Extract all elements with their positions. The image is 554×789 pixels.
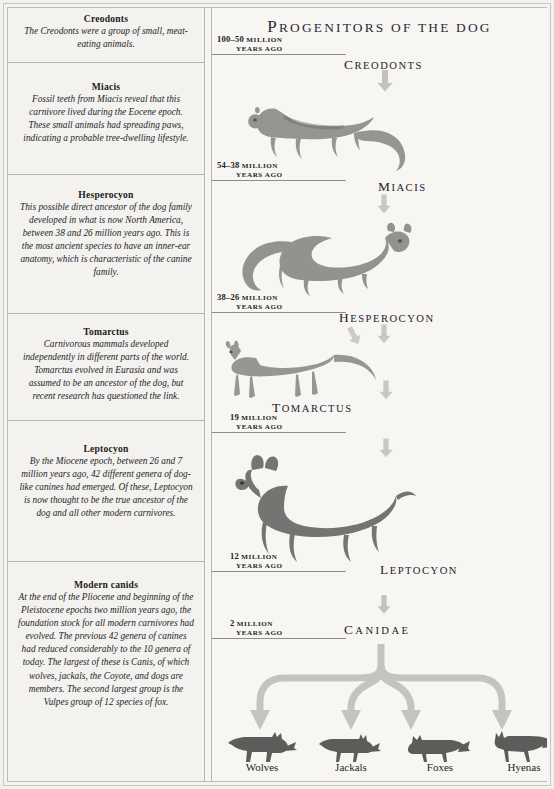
arrow-down-icon bbox=[377, 594, 391, 615]
descendant-label-hyenas: Hyenas bbox=[484, 761, 547, 773]
illustration-tomarctus bbox=[222, 338, 387, 410]
panel-tomarctus: Tomarctus Carnivorous mammals developed … bbox=[8, 314, 204, 421]
panel-leptocyon: Leptocyon By the Miocene epoch, between … bbox=[8, 421, 204, 562]
silhouette-hyena bbox=[494, 730, 547, 763]
timeline-rule bbox=[212, 180, 346, 181]
timeline-rule bbox=[212, 571, 346, 572]
timeline-unit: MILLION bbox=[237, 620, 273, 628]
descendant-label-wolves: Wolves bbox=[222, 761, 302, 773]
timeline-range-value: 54–38 bbox=[217, 160, 239, 170]
panel-heading: Creodonts bbox=[18, 13, 194, 24]
silhouette-wolf bbox=[228, 731, 298, 763]
timeline-marker-6: 2 MILLION YEARS AGO bbox=[212, 618, 362, 639]
panel-body: Carnivorous mammals developed independen… bbox=[18, 338, 194, 403]
panel-miacis: Miacis Fossil teeth from Miacis reveal t… bbox=[8, 63, 204, 175]
panel-body: This possible direct ancestor of the dog… bbox=[18, 201, 194, 280]
timeline-rule bbox=[212, 312, 346, 313]
stage-initial: C bbox=[344, 57, 354, 72]
panel-hesperocyon: Hesperocyon This possible direct ancesto… bbox=[8, 175, 204, 314]
timeline-unit: MILLION bbox=[246, 36, 282, 44]
stage-initial: M bbox=[378, 179, 391, 194]
poster-page: Creodonts The Creodonts were a group of … bbox=[0, 0, 554, 789]
panel-body: Fossil teeth from Miacis reveal that thi… bbox=[18, 93, 194, 145]
panel-creodonts: Creodonts The Creodonts were a group of … bbox=[8, 8, 204, 63]
stage-rest: ESPEROCYON bbox=[350, 313, 434, 324]
stage-initial: C bbox=[344, 622, 355, 637]
timeline-marker-1: 100–50 MILLION YEARS AGO bbox=[212, 34, 362, 55]
timeline-rule bbox=[212, 54, 346, 55]
stage-label-miacis: MIACIS bbox=[378, 179, 427, 195]
column-divider-outer bbox=[204, 8, 205, 781]
panel-heading: Tomarctus bbox=[18, 326, 194, 337]
descendant-label-jackals: Jackals bbox=[311, 761, 391, 773]
timeline-sub: YEARS AGO bbox=[212, 629, 362, 637]
timeline-rule bbox=[212, 638, 346, 639]
timeline-sub: YEARS AGO bbox=[212, 423, 362, 431]
illustration-leptocyon bbox=[232, 452, 417, 567]
silhouette-jackal bbox=[319, 733, 381, 763]
illustration-creodont bbox=[244, 83, 419, 178]
stage-rest: IACIS bbox=[391, 182, 426, 193]
panel-body: At the end of the Pliocene and beginning… bbox=[18, 591, 194, 709]
illustration-miacis bbox=[232, 204, 427, 304]
panel-body: The Creodonts were a group of small, mea… bbox=[18, 25, 194, 51]
timeline-range: 100–50 MILLION bbox=[212, 34, 362, 44]
panel-body: By the Miocene epoch, between 26 and 7 m… bbox=[18, 455, 194, 520]
title-text: ROGENITORS OF THE DOG bbox=[279, 20, 492, 35]
timeline-range-value: 2 bbox=[230, 618, 235, 628]
stage-label-canidae: CANIDAE bbox=[344, 622, 410, 638]
descendant-label-foxes: Foxes bbox=[400, 761, 480, 773]
timeline-sub: YEARS AGO bbox=[212, 45, 362, 53]
description-column: Creodonts The Creodonts were a group of … bbox=[8, 8, 204, 781]
panel-modern-canids: Modern canids At the end of the Pliocene… bbox=[8, 562, 204, 781]
stage-rest: ANIDAE bbox=[355, 625, 410, 636]
branch-arrows-icon bbox=[226, 644, 536, 734]
timeline-range-value: 100–50 bbox=[217, 34, 244, 44]
panel-heading: Hesperocyon bbox=[18, 189, 194, 200]
panel-heading: Modern canids bbox=[18, 579, 194, 590]
timeline-range-value: 19 bbox=[230, 412, 239, 422]
diagram-column: PPROGENITORS OF THE DOGROGENITORS OF THE… bbox=[212, 8, 547, 781]
timeline-rule bbox=[212, 432, 346, 433]
timeline-range: 2 MILLION bbox=[212, 618, 362, 628]
silhouette-fox bbox=[408, 734, 470, 763]
stage-initial: H bbox=[339, 310, 350, 325]
panel-heading: Leptocyon bbox=[18, 443, 194, 454]
panel-heading: Miacis bbox=[18, 81, 194, 92]
